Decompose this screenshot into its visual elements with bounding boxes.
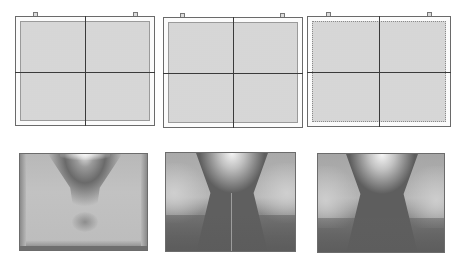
schematic-3 <box>307 16 451 127</box>
simulation-1-bottom-band <box>20 246 147 250</box>
simulation-3-lower-plateau <box>318 218 444 253</box>
simulation-2-center-seam <box>231 193 232 252</box>
simulation-1-left-edge <box>20 154 26 250</box>
schematic-1-contact-tab-left <box>33 12 38 16</box>
bleed-through-text <box>20 130 450 144</box>
simulation-2 <box>165 152 296 252</box>
schematic-3-contact-tab-right <box>427 12 432 16</box>
schematic-3-horizontal-divider <box>307 72 451 73</box>
simulation-3 <box>317 153 445 253</box>
schematic-1 <box>15 16 155 126</box>
simulation-1 <box>19 153 148 251</box>
simulation-1-right-edge <box>141 154 147 250</box>
schematic-1-contact-tab-right <box>133 12 138 16</box>
schematic-2-horizontal-divider <box>163 73 303 74</box>
schematic-1-vertical-divider <box>85 16 86 126</box>
simulation-2-left-lobe <box>166 163 206 223</box>
schematic-2-contact-tab-right <box>280 13 285 17</box>
schematic-2-contact-tab-left <box>180 13 185 17</box>
schematic-1-horizontal-divider <box>15 72 155 73</box>
schematic-2 <box>163 17 303 128</box>
simulation-1-tail <box>72 212 98 232</box>
schematic-3-contact-tab-left <box>326 12 331 16</box>
simulation-1-top-highlight <box>60 154 110 160</box>
